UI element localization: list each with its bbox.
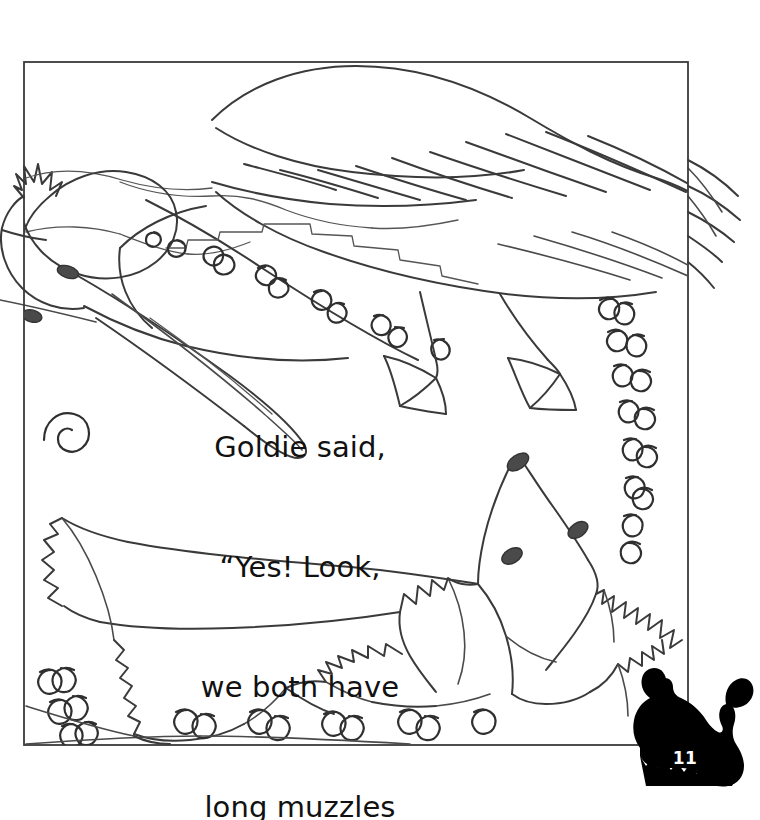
story-line-4: long muzzles [150, 787, 450, 820]
story-line-1: Goldie said, [150, 427, 450, 467]
story-text-block: Goldie said, “Yes! Look, we both have lo… [150, 347, 450, 820]
page-number: 11 [664, 748, 706, 768]
storybook-page: .ln { fill:none; stroke:#3a3a3a; stroke-… [0, 0, 760, 820]
story-line-3: we both have [150, 667, 450, 707]
story-line-2: “Yes! Look, [150, 547, 450, 587]
